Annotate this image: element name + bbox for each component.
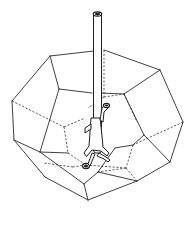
polyhedron-diagram (0, 0, 194, 225)
branch-lower-left (88, 153, 95, 166)
tube-assembly (83, 12, 110, 169)
branch-lower (84, 118, 109, 157)
